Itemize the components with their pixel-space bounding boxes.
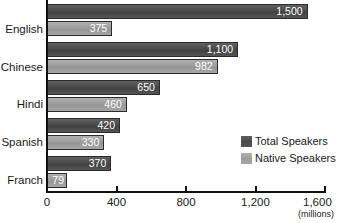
bar-value-native-chinese: 982 [195,61,217,72]
x-tick-800 [185,186,187,192]
category-label-chinese: Chinese [0,62,43,74]
x-axis-unit-label: (millions) [298,209,334,219]
x-tick-400 [116,186,118,192]
legend-swatch-native-speakers [241,153,252,164]
category-label-english: English [0,24,43,36]
bar-total-franch: 370 [47,156,111,171]
bar-value-native-franch: 79 [52,175,66,186]
bar-total-english: 1,500 [47,4,308,19]
bar-native-english: 375 [47,21,112,36]
legend-swatch-total-speakers [241,136,252,147]
chart-legend: Total Speakers Native Speakers [241,136,336,170]
bar-value-total-spanish: 420 [97,120,119,131]
x-tick-1600 [324,186,326,192]
y-axis-line [46,0,48,193]
bar-value-native-english: 375 [90,23,112,34]
bar-value-total-franch: 370 [89,158,111,169]
x-tick-label-800: 800 [176,196,195,208]
legend-label-native-speakers: Native Speakers [255,153,336,164]
bar-value-total-chinese: 1,100 [207,44,237,55]
bar-group-english: 1,500 375 [47,4,325,38]
bar-total-hindi: 650 [47,80,160,95]
bar-native-franch: 79 [47,173,67,188]
x-tick-0 [46,186,48,192]
bar-native-spanish: 330 [47,135,104,150]
bar-value-native-hindi: 460 [104,99,126,110]
speakers-bar-chart: English Chinese Hindi Spanish Franch 1,5… [0,0,337,223]
x-tick-label-1200: 1,200 [241,196,270,208]
bar-group-hindi: 650 460 [47,80,325,114]
bar-native-hindi: 460 [47,97,127,112]
bar-native-chinese: 982 [47,59,218,74]
bar-total-spanish: 420 [47,118,120,133]
x-tick-label-1600: 1,600 [303,196,332,208]
bar-value-total-english: 1,500 [276,6,306,17]
category-label-hindi: Hindi [0,99,43,111]
x-tick-1200 [255,186,257,192]
category-label-franch: Franch [0,175,43,187]
legend-label-total-speakers: Total Speakers [255,136,328,147]
x-tick-label-0: 0 [44,196,50,208]
bar-value-total-hindi: 650 [137,82,159,93]
bar-value-native-spanish: 330 [82,137,104,148]
legend-item-total-speakers: Total Speakers [241,136,336,147]
legend-item-native-speakers: Native Speakers [241,153,336,164]
category-axis: English Chinese Hindi Spanish Franch [0,0,43,192]
bar-group-chinese: 1,100 982 [47,42,325,76]
x-tick-label-400: 400 [107,196,126,208]
bar-total-chinese: 1,100 [47,42,238,57]
category-label-spanish: Spanish [0,137,43,149]
